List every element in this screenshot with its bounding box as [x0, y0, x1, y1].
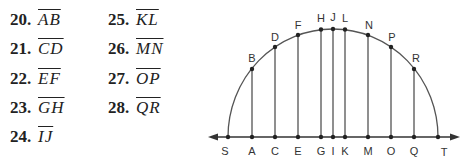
label-H: H: [317, 12, 325, 24]
label-N: N: [365, 19, 373, 31]
label-B: B: [248, 52, 255, 64]
label-O: O: [387, 145, 396, 157]
vertical-segments: [252, 29, 414, 137]
label-I: I: [331, 145, 334, 157]
label-J: J: [330, 11, 336, 23]
label-S: S: [221, 145, 228, 157]
label-F: F: [295, 19, 302, 31]
label-G: G: [317, 145, 326, 157]
label-C: C: [271, 145, 279, 157]
label-M: M: [363, 145, 372, 157]
arc-labels: B D F H J L N P R: [248, 11, 420, 64]
left-arrow-icon: [208, 134, 218, 141]
label-P: P: [388, 31, 395, 43]
label-E: E: [294, 145, 301, 157]
semicircle-diagram: S A C E G I K M O Q T B D F H J L N P R: [0, 0, 472, 165]
label-R: R: [412, 52, 420, 64]
label-A: A: [248, 145, 256, 157]
right-arrow-icon: [450, 134, 460, 141]
label-K: K: [341, 145, 349, 157]
label-L: L: [342, 12, 348, 24]
label-Q: Q: [410, 145, 419, 157]
axis-labels: S A C E G I K M O Q T: [221, 145, 447, 158]
label-T: T: [441, 146, 448, 158]
label-D: D: [271, 31, 279, 43]
